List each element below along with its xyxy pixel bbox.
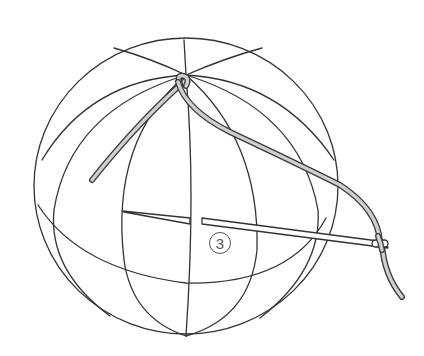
thread-left-tail — [92, 80, 186, 180]
thread-main-strand — [178, 82, 380, 242]
thread-through-eye — [378, 236, 382, 250]
meridian-top-left — [114, 48, 186, 75]
step-number-text: 3 — [216, 236, 224, 251]
meridian-outer-right — [186, 75, 318, 318]
meridian-inner-right — [186, 75, 257, 336]
meridian-far-left — [42, 75, 186, 160]
sphere-illustration — [0, 0, 424, 356]
step-number-label: 3 — [209, 232, 231, 254]
needle-tip-segment — [122, 211, 190, 224]
illustration-canvas: 3 — [0, 0, 424, 356]
thread-hanging-end — [382, 244, 402, 297]
